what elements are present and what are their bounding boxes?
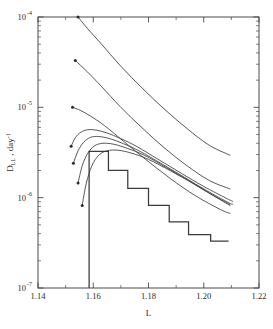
plot-frame (38, 17, 259, 288)
y-tick-label-mantissa-1: 10 (18, 102, 27, 112)
step-histogram-group (89, 151, 229, 288)
curve-steep-curve-2 (75, 60, 230, 188)
chart-plot: 1.141.161.181.201.22 10-410-510-610-7 LD… (0, 0, 273, 329)
x-tick-label-1: 1.16 (86, 291, 101, 301)
y-tick-label-exponent-3: -7 (27, 281, 32, 287)
y-axis-title-exponent: -1 (5, 133, 11, 138)
x-axis-tick-group (38, 17, 259, 288)
y-tick-label-exponent-2: -6 (27, 191, 32, 197)
y-tick-label-group-2: 10-6 (18, 191, 33, 203)
x-axis-tick-label-group: 1.141.161.181.201.22 (31, 291, 267, 301)
y-tick-label-mantissa-0: 10 (18, 12, 27, 22)
endpoint-marker-peaked-curve-2 (72, 162, 75, 165)
endpoint-marker-peaked-curve-4 (81, 204, 84, 207)
x-tick-label-4: 1.22 (252, 291, 267, 301)
endpoint-marker-peaked-curve-3 (77, 182, 80, 185)
curve-peaked-curve-2 (73, 136, 232, 204)
curve-peaked-curve-1 (71, 130, 233, 202)
y-tick-label-exponent-0: -4 (27, 10, 32, 16)
figure-container: 1.141.161.181.201.22 10-410-510-610-7 LD… (0, 0, 273, 329)
endpoint-marker-steep-curve-2 (74, 59, 77, 62)
y-axis-title: DLL , day-1 (5, 133, 16, 172)
x-tick-label-2: 1.18 (141, 291, 156, 301)
data-curve-group (71, 17, 233, 213)
endpoint-marker-steep-curve-1 (77, 16, 80, 19)
y-tick-label-group-0: 10-4 (18, 10, 33, 22)
y-tick-label-exponent-1: -5 (27, 100, 32, 106)
x-tick-label-0: 1.14 (31, 291, 47, 301)
y-tick-label-mantissa-3: 10 (18, 283, 27, 293)
endpoint-marker-steep-curve-3 (71, 106, 74, 109)
x-tick-label-3: 1.20 (196, 291, 211, 301)
axis-title-group: LDLL , day-1 (5, 133, 151, 318)
plot-frame-group (38, 17, 259, 288)
x-axis-title: L (146, 308, 152, 318)
y-axis-title-units: , day (5, 138, 15, 158)
step-histogram-path (89, 151, 229, 288)
y-axis-tick-label-group: 10-410-510-610-7 (18, 10, 33, 293)
y-axis-tick-group (38, 17, 259, 288)
endpoint-marker-peaked-curve-1 (70, 145, 73, 148)
y-tick-label-group-1: 10-5 (18, 100, 33, 112)
y-tick-label-mantissa-2: 10 (18, 193, 27, 203)
curve-peaked-curve-3 (78, 143, 230, 204)
